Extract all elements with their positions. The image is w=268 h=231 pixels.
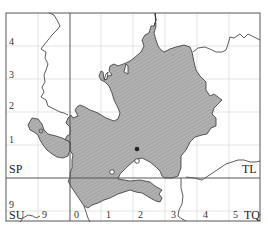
bottom-axis-label-4: 4 <box>203 210 208 220</box>
bottom-axis-label-0: 0 <box>74 210 79 220</box>
boundary-southwest-2 <box>84 206 90 222</box>
grid-square-label-tl: TL <box>242 163 257 175</box>
bottom-axis-label-3: 3 <box>171 210 176 220</box>
bottom-axis-label-2: 2 <box>138 210 143 220</box>
boundary-northeast <box>193 34 260 52</box>
distribution-map <box>0 0 268 231</box>
left-axis-label-4: 4 <box>9 37 14 47</box>
grid-square-label-tq: TQ <box>244 209 260 221</box>
grid-square-label-su: SU <box>9 209 24 221</box>
record-open-circle <box>110 170 115 175</box>
boundary-west <box>41 13 68 115</box>
record-filled-dot <box>135 147 140 152</box>
grid-square-label-sp: SP <box>9 163 22 175</box>
bottom-axis-label-1: 1 <box>106 210 111 220</box>
left-axis-label-3: 3 <box>9 70 14 80</box>
boundary-south <box>178 178 186 221</box>
bottom-axis-label-5: 5 <box>233 210 238 220</box>
left-axis-label-1: 1 <box>9 135 14 145</box>
shaded-region-west <box>28 118 70 158</box>
bottom-axis-label-9: 9 <box>42 210 47 220</box>
left-axis-label-2: 2 <box>9 101 14 111</box>
inlet <box>104 72 108 80</box>
record-open-circle <box>135 159 140 164</box>
